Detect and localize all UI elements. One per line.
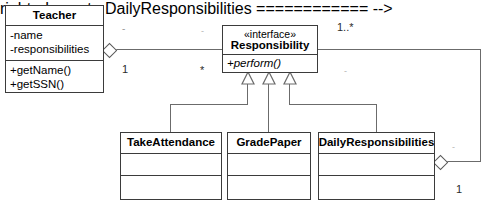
- association-label-teacher-role: -: [122, 24, 125, 34]
- generalization-take-attendance-v1: [247, 84, 248, 105]
- association-label-daily-role: -: [452, 143, 455, 152]
- class-attributes-grade-paper: [228, 154, 310, 176]
- association-label-interface-right: -: [344, 67, 347, 76]
- operation-row: +getSSN(): [10, 77, 103, 91]
- attribute-row: -responsibilities: [10, 42, 103, 56]
- association-multiplicity-far: 1..*: [337, 22, 354, 33]
- generalization-take-attendance-h: [170, 104, 248, 105]
- generalization-daily-v1: [289, 84, 290, 105]
- class-name-responsibility: Responsibility: [231, 40, 310, 52]
- class-operations-grade-paper: [228, 176, 310, 199]
- class-operations-take-attendance: [121, 176, 221, 199]
- generalization-daily-v2: [376, 104, 377, 132]
- class-title-take-attendance: TakeAttendance: [121, 133, 221, 154]
- class-box-grade-paper[interactable]: GradePaper: [227, 132, 311, 200]
- association-teacher-responsibility-line: [112, 49, 222, 50]
- association-multiplicity-teacher: 1: [122, 64, 128, 75]
- association-label-responsibility-role: -: [201, 27, 204, 36]
- class-box-responsibility[interactable]: «interface» Responsibility +perform(): [222, 25, 318, 73]
- aggregation-diamond-teacher: [102, 43, 118, 59]
- class-operations-teacher: +getName() +getSSN(): [6, 61, 103, 92]
- class-box-take-attendance[interactable]: TakeAttendance: [120, 132, 222, 200]
- class-name-take-attendance: TakeAttendance: [127, 137, 215, 149]
- class-attributes-take-attendance: [121, 154, 221, 176]
- class-box-teacher[interactable]: Teacher -name -responsibilities +getName…: [5, 5, 104, 93]
- class-attributes-teacher: -name -responsibilities: [6, 26, 103, 61]
- class-name-daily-responsibilities: DailyResponsibilities: [319, 137, 434, 149]
- generalization-grade-paper-v: [268, 84, 269, 132]
- class-title-grade-paper: GradePaper: [228, 133, 310, 154]
- operation-row: +perform(): [227, 56, 317, 70]
- association-responsibility-right-line: [317, 49, 481, 50]
- uml-class-diagram-canvas: right, down, to DailyResponsibilities ==…: [0, 0, 487, 202]
- aggregation-diamond-daily-responsibilities: [433, 155, 449, 171]
- class-operations-daily-responsibilities: [319, 176, 434, 199]
- generalization-daily-h: [289, 104, 377, 105]
- class-attributes-daily-responsibilities: [319, 154, 434, 176]
- association-right-vertical-line: [480, 49, 481, 162]
- class-name-teacher: Teacher: [33, 10, 76, 22]
- association-multiplicity-daily: 1: [456, 184, 462, 195]
- class-operations-responsibility: +perform(): [223, 55, 317, 72]
- class-title-responsibility: «interface» Responsibility: [223, 26, 317, 55]
- operation-row: +getName(): [10, 63, 103, 77]
- class-title-teacher: Teacher: [6, 6, 103, 26]
- attribute-row: -name: [10, 28, 103, 42]
- class-title-daily-responsibilities: DailyResponsibilities: [319, 133, 434, 154]
- generalization-take-attendance-v2: [170, 104, 171, 132]
- class-box-daily-responsibilities[interactable]: DailyResponsibilities: [318, 132, 435, 200]
- association-daily-back-line: [444, 161, 481, 162]
- association-multiplicity-responsibility: *: [200, 65, 204, 76]
- class-name-grade-paper: GradePaper: [236, 137, 301, 149]
